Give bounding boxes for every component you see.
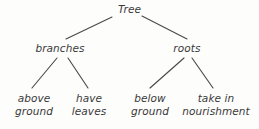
node-above-ground: above ground [3,92,65,118]
edge-tree-branches [66,17,112,39]
node-below-ground-line2: ground [121,105,179,118]
node-roots: roots [137,42,237,55]
node-have-leaves: have leaves [61,92,117,118]
node-branches-label: branches [10,42,110,55]
node-take-in-nourishment-line1: take in [176,92,256,105]
edge-branches-above-ground [32,58,57,88]
node-above-ground-line2: ground [3,105,65,118]
node-have-leaves-line2: leaves [61,105,117,118]
node-take-in-nourishment: take in nourishment [176,92,256,118]
node-below-ground: below ground [121,92,179,118]
node-tree: Tree [0,3,259,16]
node-above-ground-line1: above [3,92,65,105]
node-roots-label: roots [137,42,237,55]
node-tree-label: Tree [0,3,259,16]
edge-roots-below-ground [150,58,184,88]
node-take-in-nourishment-line2: nourishment [176,105,256,118]
tree-diagram: Tree branches roots above ground have le… [0,0,259,129]
node-branches: branches [10,42,110,55]
node-below-ground-line1: below [121,92,179,105]
edge-roots-take-in-nourishment [192,58,213,88]
node-have-leaves-line1: have [61,92,117,105]
edge-branches-have-leaves [68,58,88,88]
edge-tree-roots [142,16,187,39]
